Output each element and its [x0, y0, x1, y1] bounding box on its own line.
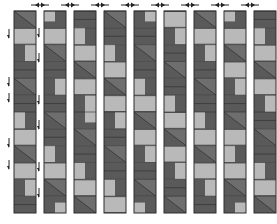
strip-1	[14, 11, 36, 213]
block-light-bar	[14, 28, 36, 45]
strip-9	[254, 11, 276, 213]
light-half-shape	[175, 28, 186, 45]
arrow-head-left	[215, 3, 219, 8]
double-arrow-icon	[151, 3, 169, 8]
block-light-right	[254, 95, 276, 112]
block-light-bar	[224, 28, 246, 45]
light-bar-shape	[104, 197, 126, 212]
arrow-head	[7, 35, 9, 39]
block-light-left	[14, 112, 36, 129]
block-dark	[44, 62, 66, 79]
arrow-head	[37, 168, 39, 172]
block-light-bar	[104, 196, 126, 213]
block-dark	[134, 28, 156, 45]
block-light-bar	[164, 11, 186, 28]
light-bar-shape	[104, 96, 126, 111]
light-half-shape	[235, 78, 246, 95]
block-light-left	[164, 95, 186, 112]
block-light-left	[74, 28, 96, 45]
block-light-bar	[254, 78, 276, 95]
block-light-right	[14, 179, 36, 196]
strip-2	[44, 11, 66, 213]
strip-6	[164, 11, 186, 213]
arrow-head	[7, 166, 9, 170]
arrow-head	[37, 126, 39, 130]
light-bar-shape	[254, 180, 276, 195]
block-corner-bl	[134, 196, 156, 213]
block-diag	[164, 129, 186, 146]
light-bar-shape	[44, 29, 66, 44]
light-bar-shape	[74, 180, 96, 195]
block-diag	[254, 129, 276, 146]
arrow-head	[7, 99, 9, 103]
block-light-right	[164, 163, 186, 180]
block-dark	[14, 95, 36, 112]
arrow-head	[37, 101, 39, 105]
double-arrow-icon	[91, 3, 109, 8]
light-bar-shape	[194, 29, 216, 44]
block-dark	[104, 163, 126, 180]
light-bar-shape	[224, 164, 246, 179]
light-half-shape	[25, 179, 36, 196]
block-light-bar	[164, 112, 186, 129]
light-half-shape	[104, 45, 115, 62]
block-light-left	[104, 45, 126, 62]
block-diag	[224, 179, 246, 196]
block-light-bar	[254, 179, 276, 196]
block-dark	[254, 112, 276, 129]
light-half-shape	[205, 45, 216, 62]
block-light-right	[74, 95, 96, 112]
light-corner-shape	[85, 112, 96, 122]
block-corner-br	[44, 196, 66, 213]
block-light-left	[254, 163, 276, 180]
arrow-head-right	[131, 3, 135, 8]
down-arrow-icon	[37, 188, 39, 198]
down-arrow-icon	[7, 93, 9, 103]
block-light-left	[194, 112, 216, 129]
light-half-shape	[44, 146, 55, 163]
block-light-bar	[14, 163, 36, 180]
light-corner-shape	[224, 11, 235, 21]
arrow-head-left	[65, 3, 69, 8]
block-light-left	[254, 28, 276, 45]
light-half-shape	[14, 112, 25, 129]
block-diag	[44, 112, 66, 129]
block-corner-tl	[44, 11, 66, 28]
light-bar-shape	[14, 164, 36, 179]
strip-pattern-diagram	[0, 0, 277, 224]
light-bar-shape	[104, 63, 126, 78]
block-light-left	[224, 146, 246, 163]
down-arrow-icon	[37, 120, 39, 130]
block-light-bar	[194, 129, 216, 146]
down-arrow-icon	[7, 77, 9, 87]
light-half-shape	[104, 179, 115, 196]
light-bar-shape	[194, 164, 216, 179]
block-dark	[134, 163, 156, 180]
arrow-head-left	[155, 3, 159, 8]
block-light-bar	[74, 78, 96, 95]
down-arrow-icon	[37, 53, 39, 63]
light-half-shape	[74, 28, 85, 45]
block-light-bar	[134, 95, 156, 112]
light-half-shape	[224, 146, 235, 163]
block-light-bar	[254, 45, 276, 62]
double-arrow-icon	[121, 3, 139, 8]
block-light-bar	[134, 129, 156, 146]
block-diag	[134, 179, 156, 196]
strip-5	[134, 11, 156, 213]
light-half-shape	[134, 78, 145, 95]
block-diag	[194, 78, 216, 95]
block-dark	[194, 95, 216, 112]
light-bar-shape	[14, 29, 36, 44]
block-dark	[14, 62, 36, 79]
down-arrow-icon	[37, 162, 39, 172]
block-diag	[194, 11, 216, 28]
block-light-bar	[74, 45, 96, 62]
arrow-head-right	[101, 3, 105, 8]
double-arrow-icon	[31, 3, 49, 8]
block-dark	[254, 146, 276, 163]
strip-8	[224, 11, 246, 213]
arrow-head-right	[41, 3, 45, 8]
block-dark	[134, 62, 156, 79]
arrow-head	[37, 34, 39, 38]
